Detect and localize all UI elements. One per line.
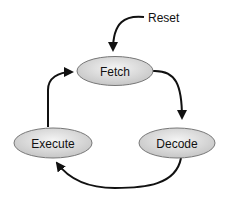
reset-arrow — [113, 17, 144, 50]
reset-label: Reset — [148, 11, 180, 25]
node-execute-label: Execute — [31, 137, 75, 151]
edge-decode-execute — [57, 158, 181, 188]
node-execute: Execute — [14, 128, 92, 158]
cycle-diagram: Reset Fetch Decode Execute — [0, 0, 228, 202]
edge-fetch-decode — [153, 71, 182, 118]
node-fetch-label: Fetch — [100, 65, 130, 79]
edge-execute-fetch — [48, 72, 72, 127]
node-decode: Decode — [139, 128, 215, 158]
node-decode-label: Decode — [156, 137, 198, 151]
node-fetch: Fetch — [77, 57, 153, 86]
